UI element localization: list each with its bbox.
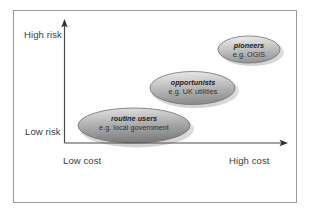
y-axis-high-label: High risk xyxy=(24,29,62,40)
y-axis-low-label: Low risk xyxy=(25,126,61,137)
opportunists-bubble[interactable] xyxy=(150,72,235,105)
bubble-shapes xyxy=(78,36,280,143)
diagram-screenshot: High risk Low risk Low cost High cost pi… xyxy=(0,0,315,215)
x-axis-low-label: Low cost xyxy=(63,155,101,166)
x-axis-high-label: High cost xyxy=(229,155,270,166)
pioneers-bubble[interactable] xyxy=(218,36,280,63)
routine-users-bubble[interactable] xyxy=(78,108,190,143)
